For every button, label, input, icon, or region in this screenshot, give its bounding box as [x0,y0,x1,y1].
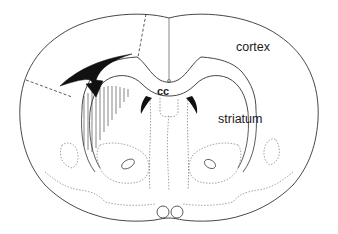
right-ventricle [186,96,197,114]
right-olfactory-region [183,172,293,205]
left-ventricle [141,96,152,114]
cortex-label: cortex [236,41,270,54]
right-optic-nerve [171,206,183,218]
left-island [60,143,78,168]
left-anterior-commissure [120,157,136,171]
cortex-dashed-line-upper [138,14,146,57]
left-optic-nerve [157,206,169,218]
left-olfactory-region [45,172,155,205]
septum-outline [160,98,178,117]
septum-lines [149,100,188,190]
corpus-callosum-label: cc [157,86,169,97]
left-striatum-inner-boundary [89,112,100,168]
striatum-label: striatum [218,113,262,126]
right-island [264,139,279,165]
right-anterior-commissure [203,158,217,171]
brain-section-diagram [0,0,338,234]
midline-lower [167,116,169,190]
